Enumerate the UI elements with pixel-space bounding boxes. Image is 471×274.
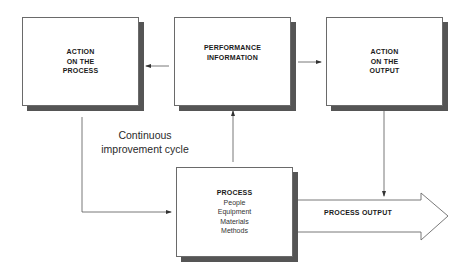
- continuous-improvement-diagram: ACTION ON THE PROCESS PERFORMANCE INFORM…: [0, 0, 471, 274]
- process-output-arrow-shape: [297, 193, 448, 240]
- process-content: PROCESS People Equipment Materials Metho…: [217, 188, 253, 236]
- process-item-methods: Methods: [217, 226, 253, 236]
- action-on-output-label: ACTION ON THE OUTPUT: [370, 47, 400, 76]
- process-item-people: People: [217, 198, 253, 208]
- process-title: PROCESS: [217, 188, 253, 198]
- action-on-process-box: ACTION ON THE PROCESS: [22, 17, 139, 106]
- performance-information-label: PERFORMANCE INFORMATION: [204, 43, 261, 62]
- process-output-label: PROCESS OUTPUT: [300, 209, 416, 216]
- cycle-label-line1: Continuous: [90, 128, 200, 142]
- process-item-materials: Materials: [217, 217, 253, 227]
- process-item-equipment: Equipment: [217, 207, 253, 217]
- action-on-process-label: ACTION ON THE PROCESS: [63, 47, 99, 76]
- action-on-output-box: ACTION ON THE OUTPUT: [326, 17, 443, 106]
- cycle-label-line2: improvement cycle: [90, 142, 200, 156]
- performance-information-box: PERFORMANCE INFORMATION: [174, 17, 291, 106]
- process-box: PROCESS People Equipment Materials Metho…: [176, 167, 293, 257]
- continuous-improvement-label: Continuous improvement cycle: [90, 128, 200, 156]
